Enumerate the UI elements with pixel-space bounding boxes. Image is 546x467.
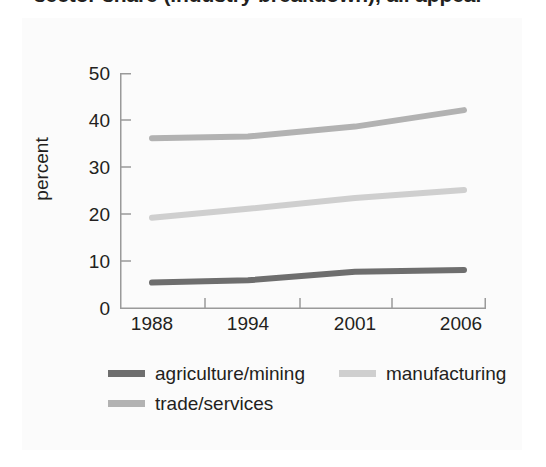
- chart-legend: agriculture/mining manufacturing trade/s…: [108, 358, 528, 418]
- legend-label: agriculture/mining: [155, 364, 305, 383]
- page-title: sector share (industry breakdown), all a…: [34, 0, 483, 7]
- legend-swatch-icon: [339, 370, 376, 377]
- legend-label: trade/services: [155, 394, 273, 413]
- legend-item-trade-services[interactable]: trade/services: [108, 394, 273, 413]
- chart-series-group: [120, 73, 486, 309]
- x-tick-label: 1988: [112, 313, 192, 336]
- series-line-trade-services: [152, 110, 464, 138]
- legend-row: trade/services: [108, 388, 528, 418]
- y-tick-label: 40: [66, 111, 110, 130]
- chart-figure: sector share (industry breakdown), all a…: [0, 0, 546, 467]
- y-tick-label: 20: [66, 205, 110, 224]
- legend-swatch-icon: [108, 400, 145, 407]
- legend-label: manufacturing: [386, 364, 506, 383]
- cropped-title-strip: sector share (industry breakdown), all a…: [0, 0, 546, 9]
- legend-row: agriculture/mining manufacturing: [108, 358, 528, 388]
- series-line-agriculture-mining: [152, 270, 464, 283]
- x-axis-tick-labels: 1988 1994 2001 2006: [120, 313, 486, 339]
- y-tick-label: 0: [66, 299, 110, 318]
- x-tick-label: 2006: [421, 313, 501, 336]
- y-tick-label: 10: [66, 252, 110, 271]
- y-axis-title: percent: [31, 109, 53, 229]
- plot-area: [120, 73, 486, 309]
- legend-item-agriculture-mining[interactable]: agriculture/mining: [108, 364, 305, 383]
- legend-item-manufacturing[interactable]: manufacturing: [339, 364, 506, 383]
- y-axis-tick-labels: 50 40 30 20 10 0: [58, 73, 110, 309]
- y-tick-label: 30: [66, 158, 110, 177]
- legend-swatch-icon: [108, 370, 145, 377]
- series-line-manufacturing: [152, 190, 464, 218]
- x-tick-label: 1994: [208, 313, 288, 336]
- y-tick-label: 50: [66, 64, 110, 83]
- x-tick-label: 2001: [315, 313, 395, 336]
